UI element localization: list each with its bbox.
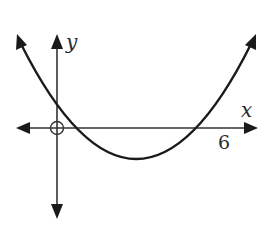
- x-axis-right-arrow-icon: [244, 122, 258, 134]
- y-axis-down-arrow-icon: [51, 204, 63, 219]
- x-axis-label: x: [241, 98, 252, 122]
- y-axis-up-arrow-icon: [51, 34, 63, 49]
- parabola-curve: [21, 44, 251, 159]
- x-tick-label-6: 6: [218, 131, 230, 153]
- x-axis-left-arrow-icon: [16, 122, 30, 134]
- y-axis-label: y: [65, 30, 78, 54]
- parabola-graph: y x 6: [0, 0, 273, 226]
